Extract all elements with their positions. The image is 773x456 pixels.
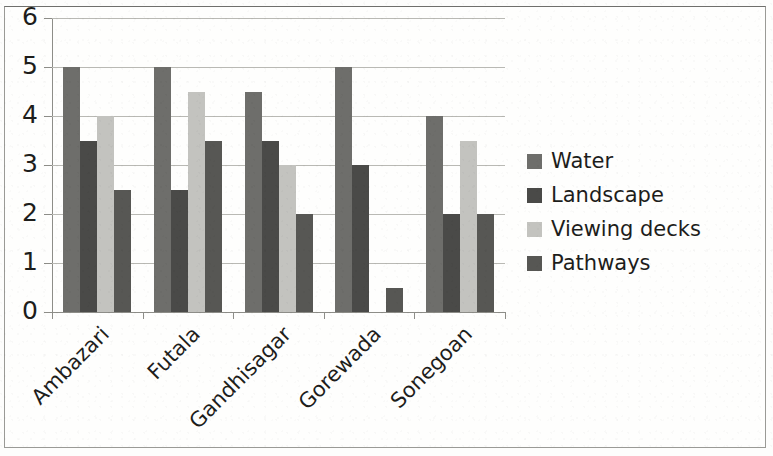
gridline (52, 67, 505, 68)
bar (262, 141, 279, 313)
chart-page: 0123456 AmbazariFutalaGandhisagarGorewad… (0, 0, 773, 456)
x-axis-tick-mark (505, 312, 506, 319)
x-axis-tick-mark (414, 312, 415, 319)
x-axis-tick-mark (233, 312, 234, 319)
y-axis-tick-mark (44, 312, 52, 313)
legend-item: Landscape (527, 178, 742, 212)
y-axis-tick-mark (44, 116, 52, 117)
bar (426, 116, 443, 312)
y-axis-tick-mark (44, 165, 52, 166)
y-axis-tick-label: 5 (8, 53, 38, 78)
y-axis-tick-label: 4 (8, 102, 38, 127)
legend-label: Landscape (551, 183, 664, 207)
legend-label: Pathways (551, 251, 651, 275)
y-axis-tick-label: 6 (8, 4, 38, 29)
y-axis-tick-label: 2 (8, 200, 38, 225)
legend-swatch-icon (527, 154, 542, 169)
y-axis-tick-label: 0 (8, 298, 38, 323)
bar (245, 92, 262, 313)
y-axis-tick-mark (44, 18, 52, 19)
grouped-bar-chart: 0123456 AmbazariFutalaGandhisagarGorewad… (0, 0, 773, 456)
bar (80, 141, 97, 313)
legend-item: Pathways (527, 246, 742, 280)
x-axis-tick-mark (52, 312, 53, 319)
bar (63, 67, 80, 312)
legend-swatch-icon (527, 188, 542, 203)
bar (154, 67, 171, 312)
gridline (52, 18, 505, 19)
legend-item: Water (527, 144, 742, 178)
y-axis-tick-mark (44, 67, 52, 68)
bar (335, 67, 352, 312)
bar (97, 116, 114, 312)
plot-area (52, 18, 505, 312)
bar (114, 190, 131, 313)
bar (477, 214, 494, 312)
legend-item: Viewing decks (527, 212, 742, 246)
bar (188, 92, 205, 313)
x-axis-tick-mark (143, 312, 144, 319)
bar (296, 214, 313, 312)
bar (352, 165, 369, 312)
legend-label: Viewing decks (551, 217, 701, 241)
legend-label: Water (551, 149, 613, 173)
bar (279, 165, 296, 312)
legend-swatch-icon (527, 222, 542, 237)
gridline (52, 312, 505, 313)
y-axis-tick-mark (44, 263, 52, 264)
y-axis-tick-label: 3 (8, 151, 38, 176)
y-axis-tick-mark (44, 214, 52, 215)
legend-swatch-icon (527, 256, 542, 271)
bar (171, 190, 188, 313)
x-axis-tick-mark (324, 312, 325, 319)
bar (443, 214, 460, 312)
bar (460, 141, 477, 313)
y-axis-tick-label: 1 (8, 249, 38, 274)
chart-legend: WaterLandscapeViewing decksPathways (527, 144, 742, 280)
bar (386, 288, 403, 313)
bar (205, 141, 222, 313)
